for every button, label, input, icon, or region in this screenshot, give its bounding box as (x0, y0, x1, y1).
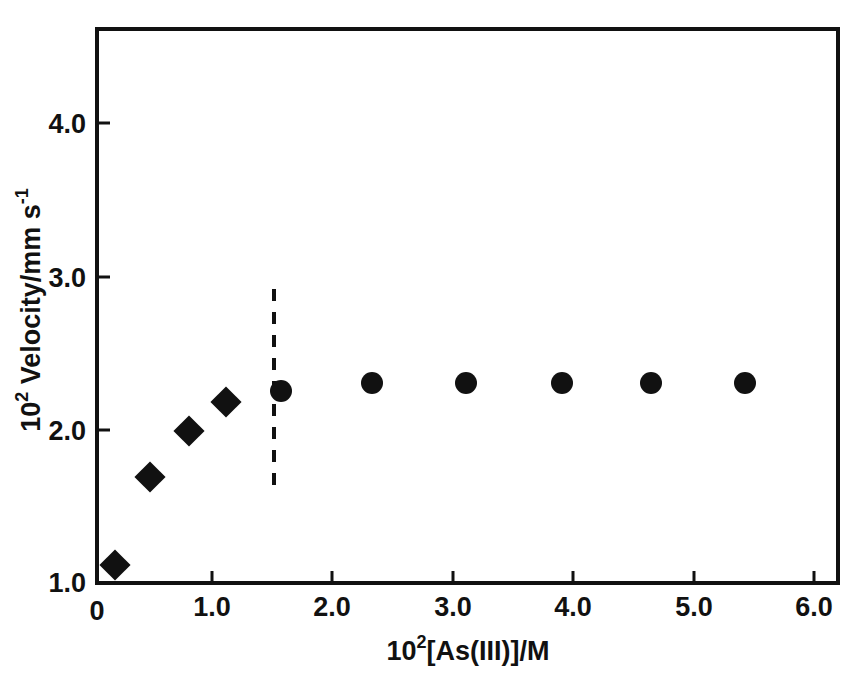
x-axis-title-units: /M (520, 636, 550, 666)
x-tick-label-0: 0 (89, 596, 104, 626)
data-point-circle (640, 372, 662, 394)
y-tick-labels: 1.0 2.0 3.0 4.0 (48, 109, 86, 598)
x-axis-title-base: 10 (386, 636, 416, 666)
data-point-circle (270, 380, 292, 402)
x-tick-label-4: 4.0 (554, 592, 592, 622)
axes-border (97, 29, 838, 583)
y-tick-label-4: 4.0 (48, 109, 86, 139)
svg-text:102 Velocity/mm s-1: 102 Velocity/mm s-1 (12, 188, 46, 432)
data-point-circle (361, 372, 383, 394)
x-axis-title-bracket-close: ] (511, 636, 520, 666)
x-tick-label-6: 6.0 (795, 592, 833, 622)
y-axis-title-quantity: Velocity/mm s (16, 204, 46, 392)
data-point-circle (455, 372, 477, 394)
x-tick-label-3: 3.0 (434, 592, 472, 622)
figure-container: 0 1.0 2.0 3.0 4.0 5.0 6.0 1.0 2.0 3.0 4.… (0, 0, 864, 676)
data-point-circle (551, 372, 573, 394)
y-tick-label-3: 3.0 (48, 263, 86, 293)
x-axis-title-species: As(III) (436, 636, 511, 666)
y-axis-title-unit-exponent: -1 (12, 188, 32, 204)
scatter-plot: 0 1.0 2.0 3.0 4.0 5.0 6.0 1.0 2.0 3.0 4.… (0, 0, 864, 676)
x-tick-labels: 0 1.0 2.0 3.0 4.0 5.0 6.0 (89, 592, 832, 626)
y-axis-title-exponent: 2 (12, 392, 32, 402)
x-tick-label-5: 5.0 (675, 592, 713, 622)
y-tick-label-1: 1.0 (48, 568, 86, 598)
x-tick-label-1: 1.0 (193, 592, 231, 622)
plot-frame (97, 29, 838, 583)
x-axis-title-exponent: 2 (417, 632, 427, 652)
x-axis-title: 102[As(III)]/M (386, 632, 549, 666)
y-axis-title: 102 Velocity/mm s-1 (12, 188, 46, 432)
x-axis-title-bracket-open: [ (427, 636, 436, 666)
data-point-circle (734, 372, 756, 394)
x-tick-label-2: 2.0 (313, 592, 351, 622)
y-tick-label-2: 2.0 (48, 416, 86, 446)
y-axis-title-base: 10 (16, 402, 46, 432)
svg-text:102[As(III)]/M: 102[As(III)]/M (386, 632, 549, 666)
